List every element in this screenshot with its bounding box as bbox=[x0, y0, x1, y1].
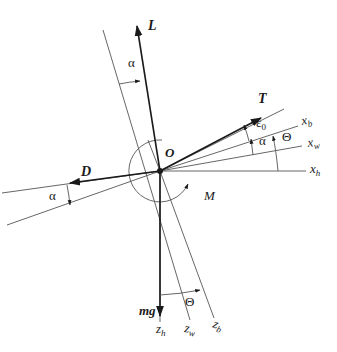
axis-x-w-label: xw bbox=[305, 133, 320, 152]
body-axis-back-line bbox=[7, 171, 160, 225]
drag-label: D bbox=[80, 164, 91, 179]
force-diagram: L T D mg O M α α α ε0 Θ Θ xb xw xh zh zw… bbox=[0, 0, 337, 352]
axis-z-h-label: zh bbox=[155, 321, 166, 338]
theta-z-label: Θ bbox=[185, 294, 194, 309]
alpha-lift-arc bbox=[119, 81, 140, 84]
alpha-lift-label: α bbox=[128, 55, 135, 70]
thrust-label: T bbox=[258, 91, 268, 106]
lift-label: L bbox=[147, 18, 157, 33]
origin-point bbox=[157, 168, 163, 174]
axis-x-b-label: xb bbox=[299, 111, 314, 130]
lift-arrow bbox=[137, 26, 160, 171]
epsilon-label: ε0 bbox=[256, 115, 266, 132]
origin-label: O bbox=[165, 145, 175, 160]
axis-z-w-line bbox=[103, 30, 190, 320]
axis-z-w-label: zw bbox=[182, 320, 196, 339]
weight-label: mg bbox=[139, 303, 156, 318]
theta-x-arc bbox=[273, 136, 278, 171]
moment-label: M bbox=[203, 188, 216, 203]
alpha-x-label: α bbox=[259, 133, 266, 148]
axis-x-w-line bbox=[160, 146, 302, 171]
thrust-arrow bbox=[160, 118, 261, 171]
alpha-drag-label: α bbox=[49, 188, 56, 203]
axis-z-b-label: zb bbox=[209, 315, 225, 335]
theta-x-label: Θ bbox=[282, 129, 291, 144]
alpha-drag-arc bbox=[67, 185, 70, 205]
axis-x-h-label: xh bbox=[309, 161, 321, 178]
